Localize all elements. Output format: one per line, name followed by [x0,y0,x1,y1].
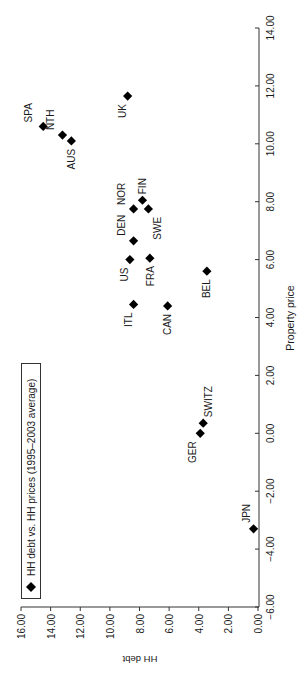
point-label: NOR [116,183,127,205]
data-point-nth: NTH [45,110,67,140]
hh-debt-tick-label: 16.00 [16,614,27,639]
hh-debt-tick-label: 0.00 [253,614,264,634]
data-point-swe: SWE [144,204,164,239]
diamond-marker-icon [163,301,172,310]
property-price-tick-label: 4.00 [265,307,276,327]
property-price-ticks: −6.00−4.00−2.000.002.004.006.008.0010.00… [255,15,276,620]
diamond-marker-icon [67,136,76,145]
data-point-jpn: JPN [241,504,259,534]
point-label: FRA [145,266,156,286]
hh-debt-tick-label: 14.00 [46,614,57,639]
diamond-marker-icon [58,131,67,140]
property-price-tick-label: 14.00 [265,15,276,40]
hh-debt-tick-label: 6.00 [164,614,175,634]
data-point-fra: FRA [145,254,156,287]
property-price-tick-label: 0.00 [265,423,276,443]
hh-debt-tick-label: 4.00 [194,614,205,634]
hh-debt-ticks: 0.002.004.006.008.0010.0012.0014.0016.00 [16,607,264,639]
data-point-itl: ITL [123,300,139,327]
point-label: NTH [45,110,56,131]
data-point-uk: UK [117,91,133,118]
diamond-marker-icon [144,204,153,213]
property-price-tick-label: −4.00 [265,536,276,562]
data-point-switz: SWITZ [199,386,215,428]
diamond-marker-icon [129,236,138,245]
scatter-chart: −6.00−4.00−2.000.002.004.006.008.0010.00… [0,0,303,677]
legend: HH debt vs. HH prices (1995–2003 average… [22,364,41,599]
diamond-marker-icon [123,91,132,100]
property-price-tick-label: 8.00 [265,192,276,212]
property-price-tick-label: 2.00 [265,365,276,385]
legend-label: HH debt vs. HH prices (1995–2003 average… [26,379,37,576]
point-label: JPN [241,504,252,523]
data-points: SPANTHAUSUKFINNORSWEDENUSFRABELITLCANSWI… [23,91,258,533]
diamond-marker-icon [199,419,208,428]
data-point-nor: NOR [116,183,139,214]
point-label: FIN [137,178,148,194]
hh-debt-tick-label: 2.00 [223,614,234,634]
point-label: UK [117,104,128,118]
point-label: US [119,267,130,281]
hh-debt-tick-label: 8.00 [135,614,146,634]
data-point-fin: FIN [137,178,148,205]
diamond-marker-icon [129,300,138,309]
point-label: DEN [116,215,127,236]
diamond-marker-icon [196,429,205,438]
diamond-marker-icon [125,255,134,264]
property-price-tick-label: 12.00 [265,73,276,98]
data-point-can: CAN [162,301,173,335]
diamond-marker-icon [249,524,258,533]
diamond-marker-icon [202,267,211,276]
point-label: SPA [23,103,34,123]
point-label: GER [187,441,198,463]
plot-area: −6.00−4.00−2.000.002.004.006.008.0010.00… [0,0,303,677]
property-price-tick-label: 6.00 [265,249,276,269]
property-price-axis-title: Property price [284,285,296,351]
point-label: CAN [162,314,173,335]
hh-debt-axis-title: HH debt [122,654,157,665]
property-price-tick-label: −6.00 [265,594,276,620]
diamond-marker-icon [129,204,138,213]
point-label: AUS [66,149,77,170]
point-label: SWITZ [203,386,214,417]
hh-debt-tick-label: 12.00 [75,614,86,639]
data-point-den: DEN [116,215,139,246]
data-point-spa: SPA [23,103,48,131]
point-label: BEL [201,279,212,298]
point-label: ITL [123,312,134,327]
hh-debt-tick-label: 10.00 [105,614,116,639]
diamond-marker-icon [145,254,154,263]
point-label: SWE [152,217,163,240]
property-price-tick-label: −2.00 [265,478,276,504]
data-point-bel: BEL [201,267,212,299]
data-point-us: US [119,255,135,282]
property-price-tick-label: 10.00 [265,131,276,156]
data-point-ger: GER [187,429,205,463]
data-point-aus: AUS [66,136,77,169]
diamond-marker-icon [138,196,147,205]
